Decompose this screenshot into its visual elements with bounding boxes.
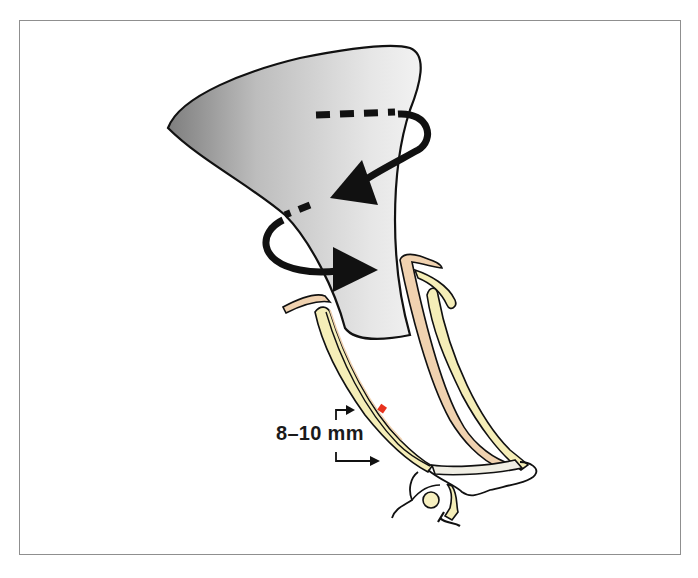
ossicle-stapes: [445, 484, 458, 520]
dimension-arrow-upper: [336, 405, 355, 420]
dimension-arrow-lower: [336, 452, 380, 466]
ossicle-round: [423, 492, 439, 508]
tympanic-membrane: [432, 460, 522, 475]
measurement-label: 8–10 mm: [276, 422, 364, 445]
diagram-canvas: [0, 0, 698, 578]
instrument-body: [168, 46, 421, 339]
